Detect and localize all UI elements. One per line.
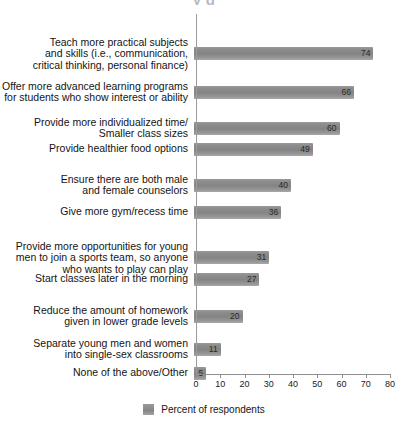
bar-row: Ensure there are both male and female co… (0, 174, 408, 197)
x-axis-tick-label: 0 (193, 379, 198, 389)
bar-value-label: 40 (279, 179, 291, 192)
bar-track: 27 (194, 273, 408, 286)
bar-row: None of the above/Other5 (0, 367, 408, 380)
x-axis-tick (220, 374, 221, 378)
category-label: Reduce the amount of homework given in l… (0, 305, 194, 328)
x-axis-tick (293, 374, 294, 378)
x-axis-tick (269, 374, 270, 378)
y-axis-line (196, 14, 197, 374)
bar-track: 5 (194, 367, 408, 380)
bar-track: 11 (194, 343, 408, 356)
x-axis-tick (390, 374, 391, 378)
bar (194, 47, 373, 60)
bar-track: 66 (194, 86, 408, 99)
bar-row: Reduce the amount of homework given in l… (0, 305, 408, 328)
bar (194, 143, 313, 156)
bar-value-label: 27 (247, 273, 259, 286)
bar-row: Provide more individualized time/ Smalle… (0, 117, 408, 140)
bar-row: Start classes later in the morning27 (0, 273, 408, 286)
bar-value-label: 66 (342, 86, 354, 99)
legend-label: Percent of respondents (161, 404, 264, 415)
bar-track: 36 (194, 206, 408, 219)
bar-row: Give more gym/recess time36 (0, 206, 408, 219)
category-label: Offer more advanced learning programs fo… (0, 81, 194, 104)
bar-value-label: 20 (230, 310, 242, 323)
x-axis-tick-label: 10 (215, 379, 225, 389)
bar-value-label: 49 (300, 143, 312, 156)
x-axis-tick-label: 80 (385, 379, 395, 389)
bar-row: Provide healthier food options49 (0, 143, 408, 156)
x-axis-tick-label: 30 (264, 379, 274, 389)
bar-track: 49 (194, 143, 408, 156)
bar (194, 179, 291, 192)
bar-rows: Teach more practical subjects and skills… (0, 14, 408, 374)
x-axis-tick (366, 374, 367, 378)
category-label: Separate young men and women into single… (0, 338, 194, 361)
category-label: Ensure there are both male and female co… (0, 174, 194, 197)
bar-track: 74 (194, 47, 408, 60)
x-axis-tick-label: 20 (239, 379, 249, 389)
x-axis-tick (245, 374, 246, 378)
bar-track: 31 (194, 251, 408, 264)
plot-area: Teach more practical subjects and skills… (0, 14, 408, 374)
bar-row: Teach more practical subjects and skills… (0, 37, 408, 72)
category-label: Start classes later in the morning (0, 273, 194, 285)
chart-title-fragment: y g (0, 0, 408, 5)
bar (194, 86, 354, 99)
bar-value-label: 11 (209, 343, 221, 356)
bar-value-label: 36 (269, 206, 281, 219)
bar-track: 20 (194, 310, 408, 323)
category-label: Give more gym/recess time (0, 206, 194, 218)
bar-track: 40 (194, 179, 408, 192)
x-axis-tick-label: 60 (336, 379, 346, 389)
chart-legend: Percent of respondents (0, 404, 408, 415)
x-axis-tick-label: 50 (312, 379, 322, 389)
category-label: None of the above/Other (0, 367, 194, 379)
bar-value-label: 31 (257, 251, 269, 264)
bar-value-label: 74 (361, 47, 373, 60)
x-axis-tick-label: 70 (361, 379, 371, 389)
x-axis-tick-label: 40 (288, 379, 298, 389)
bar (194, 122, 340, 135)
bar-row: Offer more advanced learning programs fo… (0, 81, 408, 104)
category-label: Provide more opportunities for young men… (0, 241, 194, 276)
bar-chart: y g Teach more practical subjects and sk… (0, 0, 408, 432)
x-axis-tick (342, 374, 343, 378)
bar-value-label: 60 (327, 122, 339, 135)
bar-row: Separate young men and women into single… (0, 338, 408, 361)
bar-value-label: 5 (198, 367, 206, 380)
category-label: Provide more individualized time/ Smalle… (0, 117, 194, 140)
legend-swatch-icon (143, 404, 154, 415)
x-axis-tick (196, 374, 197, 378)
category-label: Provide healthier food options (0, 143, 194, 155)
bar-track: 60 (194, 122, 408, 135)
bar-row: Provide more opportunities for young men… (0, 241, 408, 276)
x-axis-tick (317, 374, 318, 378)
category-label: Teach more practical subjects and skills… (0, 37, 194, 72)
